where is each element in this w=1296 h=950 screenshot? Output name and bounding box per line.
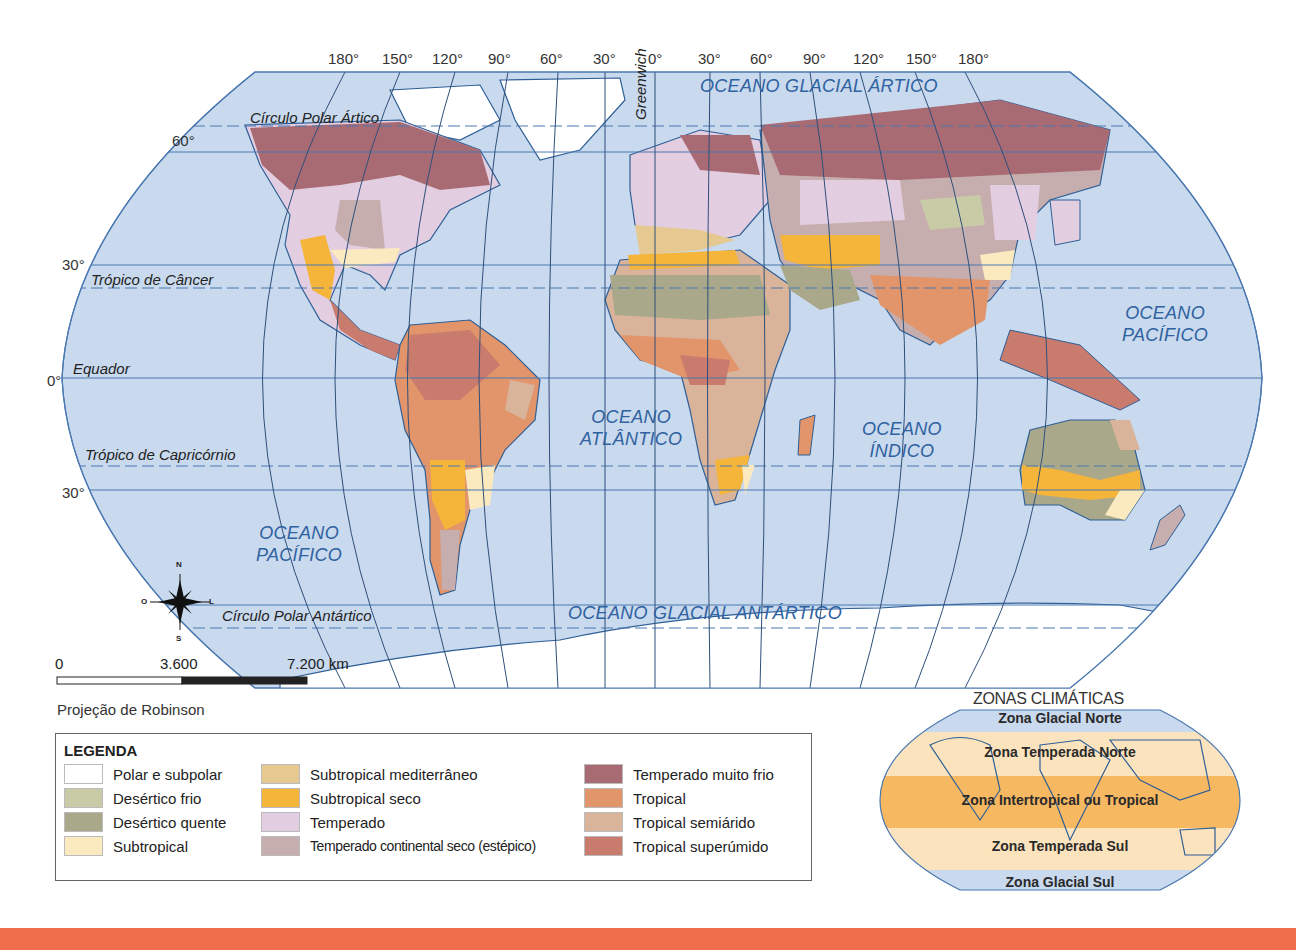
legend-item: Temperado continental seco (estépico)	[261, 836, 536, 856]
legend-item: Desértico frio	[64, 788, 201, 808]
zone-glacial-norte: Zona Glacial Norte	[880, 710, 1240, 726]
scale-label-start: 0	[55, 655, 63, 672]
legend-item: Tropical	[584, 788, 686, 808]
legend-swatch	[64, 836, 103, 856]
legend-swatch	[261, 836, 300, 856]
longitude-label: 180°	[328, 50, 359, 67]
ocean-label-pacific-east: OCEANO PACÍFICO	[1122, 302, 1208, 346]
zones-title: ZONAS CLIMÁTICAS	[973, 690, 1124, 708]
zone-temperada-norte: Zona Temperada Norte	[880, 744, 1240, 760]
longitude-label: 150°	[906, 50, 937, 67]
legend-item: Polar e subpolar	[64, 764, 222, 784]
legend-item: Subtropical	[64, 836, 188, 856]
legend-item: Subtropical seco	[261, 788, 421, 808]
zone-glacial-sul: Zona Glacial Sul	[880, 874, 1240, 890]
legend-item: Tropical superúmido	[584, 836, 768, 856]
ocean-label-arctic: OCEANO GLACIAL ÁRTICO	[700, 75, 938, 97]
longitude-label: 30°	[593, 50, 616, 67]
projection-label: Projeção de Robinson	[57, 701, 205, 718]
legend-swatch	[64, 764, 103, 784]
scale-label-mid: 3.600	[160, 655, 198, 672]
legend-swatch	[64, 812, 103, 832]
legend-item: Subtropical mediterrâneo	[261, 764, 478, 784]
zone-intertropical: Zona Intertropical ou Tropical	[880, 792, 1240, 808]
scale-label-end: 7.200 km	[287, 655, 349, 672]
tropic-of-capricorn-label: Trópico de Capricórnio	[85, 446, 236, 463]
longitude-label: 90°	[488, 50, 511, 67]
antarctic-circle-label: Círculo Polar Antártico	[222, 607, 372, 624]
latitude-label-30n: 30°	[62, 256, 85, 273]
ocean-label-atlantic: OCEANO ATLÂNTICO	[580, 406, 682, 450]
arctic-circle-label: Círculo Polar Ártico	[250, 109, 379, 126]
longitude-label: 90°	[803, 50, 826, 67]
legend-swatch	[584, 812, 623, 832]
legend-swatch	[261, 812, 300, 832]
tropic-of-cancer-label: Trópico de Câncer	[91, 271, 213, 288]
footer-bar	[0, 928, 1296, 950]
zone-temperada-sul: Zona Temperada Sul	[880, 838, 1240, 854]
ocean-label-pacific-west: OCEANO PACÍFICO	[256, 522, 342, 566]
compass-east: L	[209, 597, 214, 606]
longitude-label: 120°	[853, 50, 884, 67]
longitude-label: 60°	[540, 50, 563, 67]
legend-box: LEGENDA Polar e subpolar Desértico frio …	[55, 733, 812, 881]
legend-swatch	[64, 788, 103, 808]
legend-item: Temperado	[261, 812, 385, 832]
equator-label: Equador	[73, 360, 130, 377]
compass-north: N	[176, 560, 182, 569]
longitude-label: 150°	[382, 50, 413, 67]
greenwich-label: Greenwich	[632, 48, 649, 120]
longitude-label: 30°	[698, 50, 721, 67]
latitude-label-30s: 30°	[62, 484, 85, 501]
legend-swatch	[584, 836, 623, 856]
latitude-label-60: 60°	[172, 132, 195, 149]
legend-swatch	[584, 788, 623, 808]
ocean-label-antarctic: OCEANO GLACIAL ANTÁRTICO	[568, 602, 842, 624]
longitude-label: 60°	[750, 50, 773, 67]
legend-item: Desértico quente	[64, 812, 226, 832]
longitude-label: 180°	[958, 50, 989, 67]
scale-bar	[57, 677, 307, 684]
legend-swatch	[261, 788, 300, 808]
compass-south: S	[176, 634, 181, 643]
legend-item: Temperado muito frio	[584, 764, 774, 784]
longitude-label: 120°	[432, 50, 463, 67]
ocean-label-indian: OCEANO ÍNDICO	[862, 418, 942, 462]
legend-swatch	[261, 764, 300, 784]
legend-title: LEGENDA	[64, 742, 137, 759]
longitude-label: 0°	[648, 50, 662, 67]
legend-item: Tropical semiárido	[584, 812, 755, 832]
legend-swatch	[584, 764, 623, 784]
compass-west: O	[141, 597, 147, 606]
latitude-label-0: 0°	[47, 372, 61, 389]
